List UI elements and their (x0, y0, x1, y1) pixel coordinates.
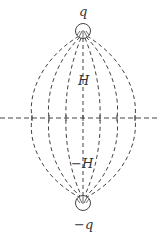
positive-charge-icon (76, 24, 91, 39)
crossing-ticks (32, 115, 135, 121)
upper-h-label: H (77, 73, 90, 88)
bottom-charge-label: −q (74, 217, 93, 232)
top-charge-label: q (79, 4, 87, 19)
lower-h-label: −H (71, 156, 94, 171)
negative-charge-icon (76, 196, 91, 211)
field-lines-diagram: q H −H −q (0, 0, 160, 232)
